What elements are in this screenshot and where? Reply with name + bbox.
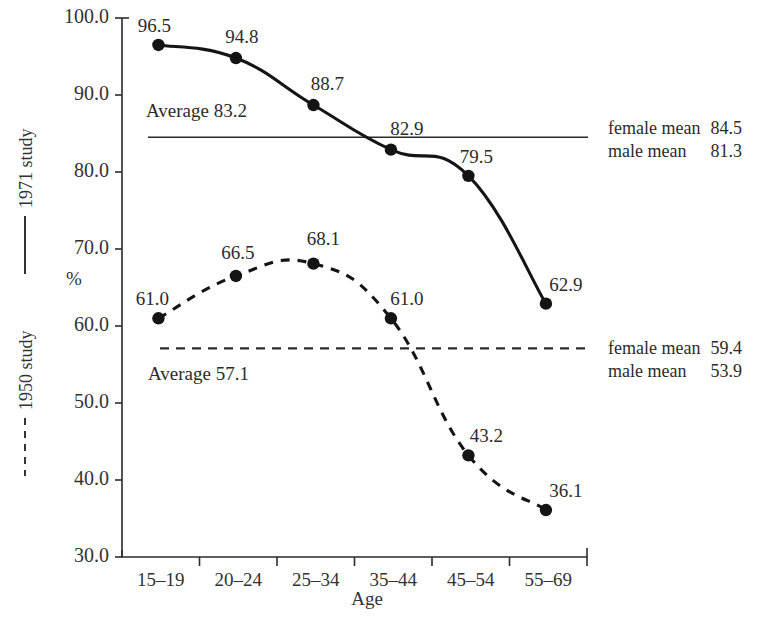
- note-row: female mean 84.5: [608, 118, 742, 141]
- lower-mean-notes: female mean 59.4 male mean 53.9: [608, 338, 742, 384]
- y-axis-title: %: [66, 268, 82, 290]
- lower-average-annotation: Average 57.1: [148, 363, 249, 385]
- y-axis-tick-label: 70.0: [35, 236, 109, 259]
- note-label: male mean: [608, 361, 700, 384]
- legend-1950-study: 1950 study: [16, 330, 37, 410]
- chart-container: 30.040.050.060.070.080.090.0100.0 15–192…: [0, 0, 764, 636]
- data-point-label: 96.5: [130, 15, 178, 37]
- x-axis-tick-label: 45–54: [426, 569, 516, 591]
- x-axis-tick-label: 55–69: [503, 569, 593, 591]
- note-row: female mean 59.4: [608, 338, 742, 361]
- x-axis-tick-label: 20–24: [193, 569, 283, 591]
- note-value: 53.9: [700, 361, 742, 384]
- x-axis-tick-label: 15–19: [116, 569, 206, 591]
- legend-1971-study: 1971 study: [16, 128, 37, 208]
- data-point-label: 68.1: [299, 228, 347, 250]
- note-value: 84.5: [700, 118, 742, 141]
- data-point-label: 61.0: [128, 288, 176, 310]
- upper-mean-notes: female mean 84.5 male mean 81.3: [608, 118, 742, 164]
- note-value: 81.3: [700, 141, 742, 164]
- data-point-label: 82.9: [383, 118, 431, 140]
- legend-dashed-swatch: [18, 416, 32, 478]
- note-label: female mean: [608, 118, 700, 141]
- x-axis-title: Age: [312, 588, 422, 610]
- y-axis-tick-label: 80.0: [35, 159, 109, 182]
- y-axis-tick-label: 40.0: [35, 467, 109, 490]
- upper-average-annotation: Average 83.2: [146, 100, 247, 122]
- note-row: male mean 53.9: [608, 361, 742, 384]
- data-point-label: 66.5: [214, 242, 262, 264]
- data-point-label: 94.8: [218, 26, 266, 48]
- y-axis-tick-label: 90.0: [35, 82, 109, 105]
- note-label: male mean: [608, 141, 700, 164]
- note-label: female mean: [608, 338, 700, 361]
- chart-canvas: [0, 0, 764, 636]
- y-axis-tick-label: 100.0: [35, 5, 109, 28]
- data-point-label: 36.1: [542, 480, 590, 502]
- legend-solid-swatch: [18, 214, 32, 276]
- y-axis-tick-label: 60.0: [35, 313, 109, 336]
- note-value: 59.4: [700, 338, 742, 361]
- data-point-label: 62.9: [542, 274, 590, 296]
- y-axis-tick-label: 50.0: [35, 390, 109, 413]
- data-point-label: 61.0: [383, 288, 431, 310]
- data-point-label: 43.2: [462, 425, 510, 447]
- note-row: male mean 81.3: [608, 141, 742, 164]
- data-point-label: 79.5: [452, 146, 500, 168]
- y-axis-tick-label: 30.0: [35, 544, 109, 567]
- data-point-label: 88.7: [303, 73, 351, 95]
